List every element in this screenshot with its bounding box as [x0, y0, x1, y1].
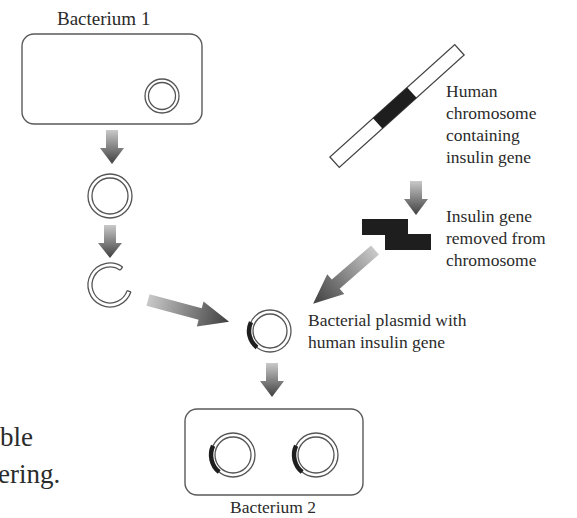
human-chromosome: [330, 45, 464, 168]
gene-removed-label: Insulin gene removed from chromosome: [446, 205, 546, 271]
arrow-down-icon: [100, 130, 124, 164]
insulin-gene-fragment: [362, 219, 431, 250]
cut-plasmid-icon: [88, 263, 131, 307]
gene-removed-label-line: Insulin gene: [446, 205, 546, 227]
chromosome-label: Human chromosome containing insulin gene: [446, 80, 536, 168]
bacterium-2: [185, 409, 363, 495]
recombinant-plasmid-label-line: Bacterial plasmid with: [308, 309, 466, 331]
bacterium-2-label: Bacterium 2: [230, 499, 316, 517]
arrow-down-icon: [404, 181, 428, 215]
recombinant-plasmid-label: Bacterial plasmid with human insulin gen…: [308, 309, 466, 353]
bacterium-1: [22, 34, 202, 124]
cropped-text-line-2: ering.: [0, 461, 60, 488]
recombinant-plasmid-label-line: human insulin gene: [308, 331, 466, 353]
arrow-down-icon: [260, 363, 284, 397]
gene-removed-label-line: removed from: [446, 227, 546, 249]
gene-removed-label-line: chromosome: [446, 249, 546, 271]
arrow-diagonal-icon: [145, 287, 233, 334]
bacterium-1-label: Bacterium 1: [57, 9, 150, 28]
recombinant-plasmid-icon: [249, 310, 291, 352]
arrow-diagonal-icon: [305, 240, 384, 313]
arrow-down-icon: [98, 225, 122, 258]
extracted-plasmid-icon: [88, 174, 132, 218]
chromosome-label-line: chromosome: [446, 102, 536, 124]
chromosome-label-line: Human: [446, 80, 536, 102]
chromosome-label-line: containing: [446, 124, 536, 146]
chromosome-label-line: insulin gene: [446, 146, 536, 168]
cropped-text-line-1: ble: [0, 424, 33, 451]
